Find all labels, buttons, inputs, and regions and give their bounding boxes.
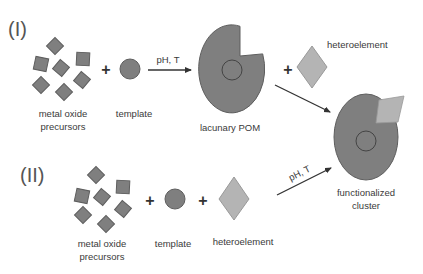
precursors-label-2b: precursors	[80, 251, 125, 262]
precursor-block	[53, 60, 70, 77]
route-2-label: (II)	[20, 164, 44, 186]
precursor-block	[115, 201, 132, 218]
precursor-block	[94, 189, 111, 206]
product-label-b: cluster	[352, 200, 380, 211]
lacunary-pom-shape	[199, 25, 265, 113]
precursor-block	[75, 207, 92, 224]
precursor-block	[56, 84, 73, 101]
precursors-label-1b: precursors	[41, 121, 86, 132]
precursor-cluster-2	[74, 167, 131, 233]
precursor-block	[98, 216, 115, 233]
precursor-block	[88, 167, 105, 184]
template-label-1: template	[116, 108, 152, 119]
precursor-block	[33, 56, 48, 71]
heteroelement-diamond-1	[297, 46, 327, 88]
precursors-label-2a: metal oxide	[78, 238, 127, 249]
pom-synthesis-diagram: (I) metal oxide precursors + template pH…	[0, 0, 423, 274]
plus-sign: +	[283, 61, 292, 78]
precursor-block	[74, 72, 91, 89]
reaction-arrow-1b	[275, 85, 330, 112]
precursor-block	[47, 38, 64, 55]
heteroelement-diamond-2	[219, 177, 249, 220]
precursor-block	[74, 188, 89, 203]
precursors-label-1a: metal oxide	[39, 108, 88, 119]
precursor-block	[33, 77, 50, 94]
plus-sign: +	[198, 192, 207, 209]
template-circle-2	[165, 189, 185, 209]
functionalized-cluster-heteroelement	[376, 96, 404, 123]
product-label-a: functionalized	[337, 187, 395, 198]
precursor-block	[76, 52, 90, 66]
heteroelement-label-1: heteroelement	[327, 39, 388, 50]
template-label-2: template	[155, 238, 191, 249]
plus-sign: +	[101, 61, 110, 78]
precursor-block	[116, 180, 130, 194]
route-1-label: (I)	[8, 18, 27, 40]
lacunary-pom-label: lacunary POM	[200, 122, 260, 133]
precursor-cluster-1	[33, 38, 91, 101]
template-circle	[120, 59, 140, 79]
heteroelement-label-2: heteroelement	[213, 236, 274, 247]
condition-label-1: pH, T	[156, 54, 179, 65]
plus-sign: +	[145, 192, 154, 209]
